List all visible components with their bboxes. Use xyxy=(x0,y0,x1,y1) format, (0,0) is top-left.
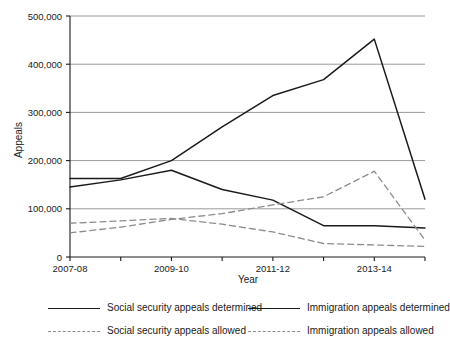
x-tick-label: 2007-08 xyxy=(53,263,88,274)
series-line xyxy=(70,218,425,246)
x-axis-title: Year xyxy=(238,274,259,285)
legend-swatch-solid xyxy=(48,308,100,309)
x-tick-label: 2013-14 xyxy=(357,263,392,274)
legend-label: Immigration appeals determined xyxy=(307,303,450,313)
y-tick-label: 500,000 xyxy=(28,11,62,22)
y-tick-label: 0 xyxy=(57,252,62,263)
legend-label: Social security appeals allowed xyxy=(107,326,246,336)
x-tick-label: 2011-12 xyxy=(256,263,290,274)
y-axis-title: Appeals xyxy=(13,122,24,158)
legend-swatch-solid xyxy=(248,308,300,309)
y-axis xyxy=(66,16,70,257)
y-tick-labels: 0100,000200,000300,000400,000500,000 xyxy=(28,11,62,263)
data-series-lines xyxy=(70,39,425,246)
y-tick-label: 300,000 xyxy=(28,107,62,118)
legend-swatch-dashed xyxy=(248,331,300,332)
series-line xyxy=(70,170,425,228)
x-axis xyxy=(70,257,425,261)
chart-legend: Social security appeals determined Immig… xyxy=(0,292,440,342)
legend-item-immigration-allowed: Immigration appeals allowed xyxy=(248,323,434,339)
legend-label: Immigration appeals allowed xyxy=(307,326,434,336)
series-line xyxy=(70,39,425,199)
legend-item-immigration-determined: Immigration appeals determined xyxy=(248,300,450,316)
x-tick-label: 2009-10 xyxy=(154,263,189,274)
y-tick-label: 200,000 xyxy=(28,155,62,166)
y-tick-label: 400,000 xyxy=(28,59,62,70)
legend-item-social-security-determined: Social security appeals determined xyxy=(48,300,262,316)
x-tick-labels: 2007-082009-102011-122013-14 xyxy=(53,263,392,274)
legend-swatch-dashed xyxy=(48,331,100,332)
legend-label: Social security appeals determined xyxy=(107,303,262,313)
legend-item-social-security-allowed: Social security appeals allowed xyxy=(48,323,246,339)
y-tick-label: 100,000 xyxy=(28,203,62,214)
series-line xyxy=(70,171,425,240)
